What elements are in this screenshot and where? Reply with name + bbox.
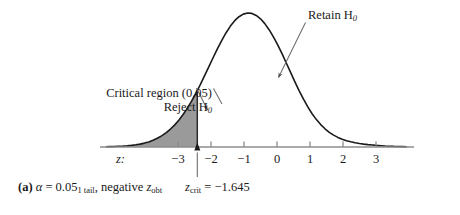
zcrit-equals-value: = −1.645 bbox=[201, 180, 249, 194]
z-axis-label: z: bbox=[116, 152, 125, 167]
figure-caption: (a) α = 0.051 tail, negative zobt bbox=[18, 180, 162, 195]
critical-region-label: Critical region (0.05) Reject H0 bbox=[90, 86, 212, 116]
reject-h0-subscript: 0 bbox=[208, 105, 212, 115]
caption-z-subscript: obt bbox=[151, 185, 162, 195]
tick-label-pos3: 3 bbox=[364, 152, 388, 167]
caption-tail-subscript: 1 tail bbox=[77, 185, 94, 195]
retain-h0-text: Retain H bbox=[308, 8, 353, 22]
reject-h0-line: Reject H0 bbox=[90, 100, 212, 116]
caption-tag: (a) bbox=[18, 180, 33, 194]
tick-label-zero: 0 bbox=[265, 152, 289, 167]
retain-leader-line bbox=[279, 23, 306, 78]
zcrit-value-label: zcrit = −1.645 bbox=[185, 180, 250, 195]
normal-curve bbox=[106, 13, 407, 147]
zcrit-subscript: crit bbox=[190, 185, 201, 195]
critical-region-leader-line bbox=[214, 89, 223, 105]
tick-label-neg2: −2 bbox=[199, 152, 223, 167]
axis-ticks bbox=[178, 142, 376, 147]
caption-rest: , negative bbox=[95, 180, 147, 194]
tick-label-pos2: 2 bbox=[331, 152, 355, 167]
reject-h0-text: Reject H bbox=[164, 100, 208, 114]
tick-label-pos1: 1 bbox=[298, 152, 322, 167]
tick-label-neg1: −1 bbox=[232, 152, 256, 167]
critical-region-text: Critical region (0.05) bbox=[106, 86, 212, 100]
retain-h0-subscript: 0 bbox=[353, 13, 357, 23]
tick-label-neg3: −3 bbox=[166, 152, 190, 167]
retain-h0-label: Retain H0 bbox=[308, 8, 357, 24]
caption-equals: = 0.05 bbox=[42, 180, 77, 194]
